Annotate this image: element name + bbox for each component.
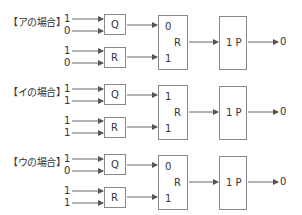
mid-gate-label: R <box>174 108 181 118</box>
mid-gate-label: R <box>174 178 181 188</box>
r-gate: R <box>104 187 126 208</box>
q-gate: Q <box>104 154 126 175</box>
wires <box>0 70 302 142</box>
final-gate-label: 1 P <box>226 38 242 48</box>
q-input-1: 1 <box>64 84 70 94</box>
wires <box>0 140 302 212</box>
case-panel-1: 【アの場合】 1 0 1 0 Q R 0 R 1 1 P 0 <box>0 0 302 72</box>
q-input-2: 0 <box>64 26 70 36</box>
mid-r-gate: 0 R 1 <box>158 155 188 210</box>
mid-bottom-input: 1 <box>165 194 171 204</box>
final-p-gate: 1 P <box>219 86 247 140</box>
case-panel-2: 【イの場合】 1 1 1 1 Q R 1 R 1 1 P 0 <box>0 70 302 142</box>
case-panel-3: 【ウの場合】 1 0 1 1 Q R 0 R 1 1 P 0 <box>0 140 302 212</box>
q-gate: Q <box>104 84 126 105</box>
r-gate-label: R <box>111 123 118 133</box>
case-label: 【イの場合】 <box>8 84 65 99</box>
q-input-2: 0 <box>64 166 70 176</box>
final-p-gate: 1 P <box>219 156 247 210</box>
q-gate-label: Q <box>111 160 119 170</box>
mid-top-input: 0 <box>165 22 171 32</box>
r-gate: R <box>104 117 126 138</box>
mid-top-input: 1 <box>165 92 171 102</box>
r-input-2: 1 <box>64 198 70 208</box>
case-label: 【アの場合】 <box>8 14 65 29</box>
final-gate-label: 1 P <box>226 178 242 188</box>
r-input-2: 1 <box>64 128 70 138</box>
output-value: 0 <box>280 107 286 117</box>
r-input-1: 1 <box>64 116 70 126</box>
final-p-gate: 1 P <box>219 16 247 70</box>
mid-top-input: 0 <box>165 162 171 172</box>
output-value: 0 <box>280 177 286 187</box>
r-input-1: 1 <box>64 46 70 56</box>
r-gate-label: R <box>111 193 118 203</box>
q-gate-label: Q <box>111 20 119 30</box>
output-value: 0 <box>280 37 286 47</box>
final-gate-label: 1 P <box>226 108 242 118</box>
q-gate-label: Q <box>111 90 119 100</box>
mid-bottom-input: 1 <box>165 124 171 134</box>
r-gate: R <box>104 47 126 68</box>
wires <box>0 0 302 72</box>
case-label: 【ウの場合】 <box>8 154 65 169</box>
q-input-2: 1 <box>64 96 70 106</box>
r-input-2: 0 <box>64 58 70 68</box>
q-input-1: 1 <box>64 154 70 164</box>
r-gate-label: R <box>111 53 118 63</box>
mid-r-gate: 1 R 1 <box>158 85 188 140</box>
mid-bottom-input: 1 <box>165 54 171 64</box>
mid-r-gate: 0 R 1 <box>158 15 188 70</box>
mid-gate-label: R <box>174 38 181 48</box>
q-gate: Q <box>104 14 126 35</box>
q-input-1: 1 <box>64 14 70 24</box>
r-input-1: 1 <box>64 186 70 196</box>
